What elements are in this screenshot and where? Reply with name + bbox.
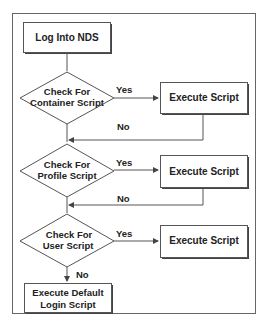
yes-label: Yes (116, 228, 132, 239)
node-execute-profile-script: Execute Script (161, 156, 250, 190)
node-label: Log Into NDS (35, 32, 99, 43)
yes-label: Yes (116, 157, 132, 168)
node-execute-container-script: Execute Script (161, 83, 250, 116)
node-execute-user-script: Execute Script (161, 226, 250, 260)
node-label-line2: Login Script (40, 299, 96, 310)
node-label-line1: Check For (46, 229, 93, 240)
node-check-user-script: Check For User Script (20, 214, 114, 267)
node-label-line2: Profile Script (37, 170, 97, 181)
node-label-line1: Check For (44, 159, 91, 170)
no-label: No (117, 193, 130, 204)
node-label-line1: Check For (44, 86, 91, 97)
node-label-line2: Container Script (30, 97, 105, 108)
node-label-line2: User Script (43, 240, 95, 251)
arrow-return-container (69, 114, 203, 140)
node-label-line1: Execute Default (32, 287, 104, 298)
node-execute-default-login-script: Execute Default Login Script (25, 284, 114, 315)
node-log-into-nds: Log Into NDS (24, 23, 113, 55)
node-check-profile-script: Check For Profile Script (20, 144, 114, 197)
yes-label: Yes (116, 84, 132, 95)
node-label: Execute Script (169, 92, 239, 103)
node-label: Execute Script (169, 166, 239, 177)
no-label: No (76, 269, 89, 280)
flowchart: Log Into NDS Check For Container Script … (0, 0, 268, 333)
node-check-container-script: Check For Container Script (20, 72, 114, 124)
arrow-return-profile (69, 188, 203, 205)
node-label: Execute Script (169, 235, 239, 246)
no-label: No (117, 121, 130, 132)
